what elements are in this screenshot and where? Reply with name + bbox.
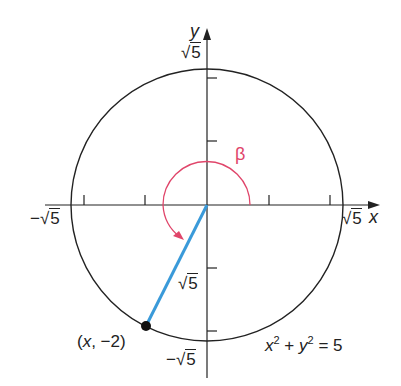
y-intercept-bottom-label: −√5 — [166, 351, 196, 368]
x-axis-label: x — [369, 208, 378, 226]
y-axis-arrow-icon — [203, 28, 211, 40]
circle-equation-label: x2 + y2 = 5 — [265, 337, 343, 354]
angle-beta-label: β — [235, 145, 245, 163]
unit-circle-diagram: y x √5 −√5 −√5 √5 √5 β (x, −2) x2 + y2 =… — [0, 0, 401, 386]
x-intercept-right-label: √5 — [342, 210, 362, 227]
y-intercept-top-label: √5 — [181, 44, 201, 61]
y-axis-label: y — [190, 22, 199, 40]
terminal-point-dot — [141, 321, 151, 331]
terminal-side-segment — [146, 205, 207, 326]
radius-segment-label: √5 — [178, 275, 198, 292]
x-intercept-left-label: −√5 — [30, 210, 60, 227]
terminal-point-label: (x, −2) — [77, 333, 126, 350]
